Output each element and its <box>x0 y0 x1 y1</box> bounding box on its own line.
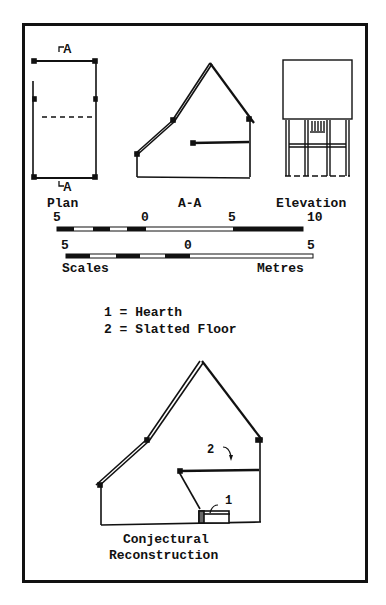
section-marker-bottom: A <box>63 180 72 194</box>
callout-2: 2 <box>207 443 214 457</box>
legend-item-hearth: 1 = Hearth <box>104 305 182 320</box>
upper-scale-tick-1: 0 <box>141 210 149 225</box>
elevation-drawing <box>283 60 352 176</box>
caption-line-1: Conjectural <box>123 532 209 547</box>
plan-label: Plan <box>47 196 78 211</box>
drawing-canvas <box>0 0 386 605</box>
upper-scale-tick-3: 10 <box>307 210 323 225</box>
section-label: A-A <box>178 196 201 211</box>
section-marker-top: A <box>63 42 72 56</box>
legend-item-slatted-floor: 2 = Slatted Floor <box>104 322 237 337</box>
caption-line-2: Reconstruction <box>109 548 218 563</box>
upper-scale-tick-0: 5 <box>53 210 61 225</box>
reconstruction-drawing <box>96 361 262 525</box>
upper-scale-tick-2: 5 <box>228 210 236 225</box>
elevation-label: Elevation <box>276 196 346 211</box>
scales-label: Scales <box>62 261 109 276</box>
plan-drawing <box>32 47 97 186</box>
lower-scale-tick-2: 5 <box>307 238 315 253</box>
lower-scale-tick-1: 0 <box>184 238 192 253</box>
section-drawing <box>135 63 254 178</box>
lower-scale-tick-0: 5 <box>61 238 69 253</box>
callout-1: 1 <box>225 494 232 508</box>
metres-label: Metres <box>257 261 304 276</box>
